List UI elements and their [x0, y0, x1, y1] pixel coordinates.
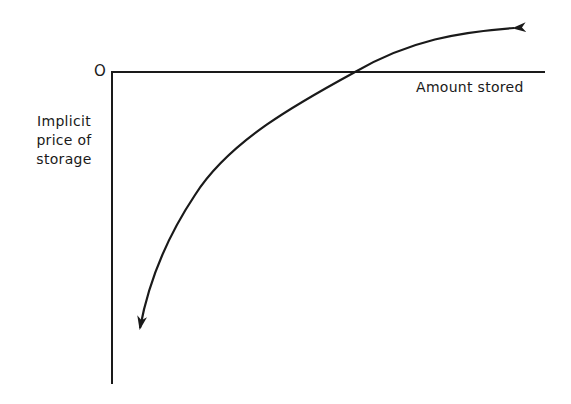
- origin-label: O: [94, 64, 106, 79]
- y-axis-label-line-1: Implicit: [28, 112, 100, 131]
- y-axis-label-line-3: storage: [28, 150, 100, 169]
- y-axis-label-line-2: price of: [28, 131, 100, 150]
- y-axis-label: Implicit price of storage: [28, 112, 100, 169]
- diagram-canvas: [0, 0, 571, 404]
- x-axis-label: Amount stored: [416, 80, 524, 94]
- storage-price-diagram: O Amount stored Implicit price of storag…: [0, 0, 571, 404]
